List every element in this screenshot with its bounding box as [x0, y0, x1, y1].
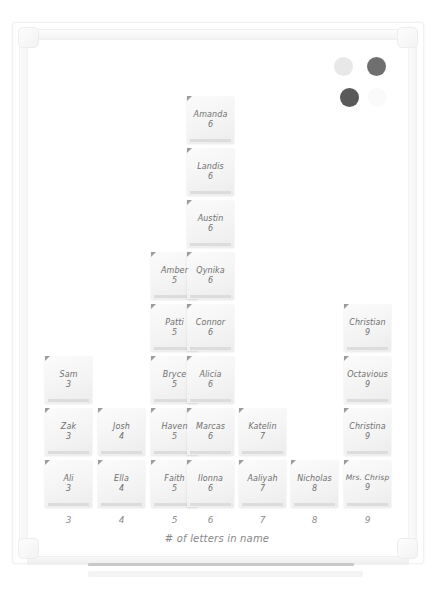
sticky-note[interactable]: Alicia6 [187, 356, 234, 403]
sticky-note-name: Ilonna [198, 474, 223, 483]
x-axis-tick-6: 6 [187, 515, 234, 525]
sticky-note[interactable]: Ilonna6 [187, 460, 234, 507]
sticky-note-name: Christian [349, 318, 386, 327]
sticky-note-name: Alicia [199, 370, 221, 379]
sticky-note-name: Haven [161, 422, 187, 431]
sticky-note-name: Christina [349, 422, 386, 431]
sticky-note-value: 6 [208, 327, 213, 338]
x-axis-tick-7: 7 [239, 515, 286, 525]
sticky-note-name: Ali [63, 474, 73, 483]
x-axis-tick-9: 9 [344, 515, 391, 525]
sticky-note-value: 5 [172, 327, 177, 338]
x-axis-tick-8: 8 [291, 515, 338, 525]
sticky-note-value: 5 [172, 379, 177, 390]
sticky-note-value: 7 [260, 483, 265, 494]
sticky-note-value: 8 [312, 483, 317, 494]
sticky-note-name: Aaliyah [247, 474, 277, 483]
sticky-note-value: 5 [172, 431, 177, 442]
sticky-note[interactable]: Octavious9 [344, 356, 391, 403]
sticky-note-value: 3 [66, 379, 71, 390]
sticky-note-name: Ella [114, 474, 129, 483]
sticky-note-name: Josh [113, 422, 130, 431]
sticky-note-value: 9 [365, 431, 370, 442]
sticky-note[interactable]: Mrs. Chrisp9 [344, 460, 391, 507]
sticky-note-name: Faith [164, 474, 184, 483]
sticky-note-value: 9 [365, 327, 370, 338]
sticky-note[interactable]: Austin6 [187, 200, 234, 247]
sticky-note[interactable]: Sam3 [45, 356, 92, 403]
marker-tray [88, 563, 354, 566]
sticky-note-name: Patti [165, 318, 184, 327]
sticky-note-value: 6 [208, 171, 213, 182]
sticky-note[interactable]: Zak3 [45, 408, 92, 455]
sticky-note-value: 6 [208, 379, 213, 390]
sticky-note-bar-chart: Sam3Zak3Ali3Josh4Ella4Amber5Patti5Bryce5… [0, 0, 434, 595]
sticky-note-name: Amber [161, 266, 188, 275]
sticky-note[interactable]: Ella4 [98, 460, 145, 507]
sticky-note[interactable]: Nicholas8 [291, 460, 338, 507]
sticky-note[interactable]: Connor6 [187, 304, 234, 351]
sticky-note[interactable]: Qynika6 [187, 252, 234, 299]
sticky-note-name: Landis [197, 162, 224, 171]
sticky-note-value: 6 [208, 483, 213, 494]
sticky-note-name: Zak [61, 422, 76, 431]
sticky-note[interactable]: Katelin7 [239, 408, 286, 455]
sticky-note-value: 9 [365, 482, 370, 493]
sticky-note-name: Connor [196, 318, 225, 327]
sticky-note-value: 6 [208, 431, 213, 442]
x-axis-tick-4: 4 [98, 515, 145, 525]
sticky-note-value: 4 [119, 483, 124, 494]
sticky-note-name: Katelin [248, 422, 276, 431]
sticky-note-name: Sam [59, 370, 77, 379]
sticky-note-value: 7 [260, 431, 265, 442]
sticky-note-name: Mrs. Chrisp [346, 474, 390, 482]
sticky-note-value: 3 [66, 483, 71, 494]
sticky-note-value: 6 [208, 119, 213, 130]
sticky-note[interactable]: Christina9 [344, 408, 391, 455]
sticky-note[interactable]: Marcas6 [187, 408, 234, 455]
sticky-note[interactable]: Christian9 [344, 304, 391, 351]
sticky-note-value: 4 [119, 431, 124, 442]
sticky-note-name: Amanda [194, 110, 228, 119]
marker-tray-shadow [88, 571, 363, 577]
sticky-note-name: Octavious [347, 370, 388, 379]
x-axis-caption: # of letters in name [0, 533, 434, 544]
x-axis-tick-3: 3 [45, 515, 92, 525]
sticky-note[interactable]: Josh4 [98, 408, 145, 455]
sticky-note[interactable]: Landis6 [187, 148, 234, 195]
sticky-note-value: 5 [172, 275, 177, 286]
sticky-note-name: Qynika [196, 266, 224, 275]
sticky-note-value: 6 [208, 275, 213, 286]
sticky-note[interactable]: Amanda6 [187, 96, 234, 143]
sticky-note-value: 6 [208, 223, 213, 234]
sticky-note-name: Marcas [196, 422, 225, 431]
sticky-note[interactable]: Aaliyah7 [239, 460, 286, 507]
sticky-note-name: Austin [198, 214, 224, 223]
sticky-note-name: Bryce [163, 370, 186, 379]
sticky-note-value: 9 [365, 379, 370, 390]
sticky-note[interactable]: Ali3 [45, 460, 92, 507]
sticky-note-value: 5 [172, 483, 177, 494]
sticky-note-value: 3 [66, 431, 71, 442]
sticky-note-name: Nicholas [297, 474, 332, 483]
